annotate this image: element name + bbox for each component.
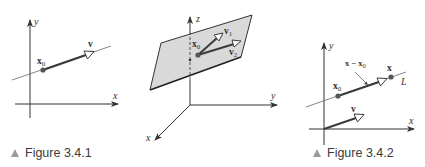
vector-v-arrowhead-icon [84,51,94,59]
y-axis-label: y [33,16,39,27]
vector-v [324,118,356,129]
triangle-marker-icon [313,149,321,157]
figure-3-4-1: y x x0 v [12,16,118,118]
pointer-line [355,72,367,84]
x-axis-label: x [408,115,414,126]
triangle-marker-icon [11,149,19,157]
point-x0-3d [195,52,200,57]
diff-label: x − x0 [345,58,366,69]
figure-3-4-2: y x x − x0 x x0 L v [306,40,414,145]
vector-x-minus-x0 [338,82,379,96]
z-axis-label: z [195,13,200,24]
vector-v [43,55,86,70]
x-axis-3d [155,105,190,140]
vector-v-label: v [88,39,93,49]
caption-figure-3-4-1: Figure 3.4.1 [11,146,92,160]
line-L-label: L [400,76,407,87]
point-x0-label: x0 [333,81,342,93]
caption-text: Figure 3.4.2 [327,146,394,160]
vector-x-minus-x0-arrowhead-icon [377,78,387,86]
point-x0-label: x0 [37,56,46,68]
point-x [388,74,393,79]
point-x0 [335,93,340,98]
figure-3d-plane: z y x x0 v1 v2 [145,13,277,143]
figures-canvas: y x x0 v z y x x0 v1 v2 [0,0,425,167]
z-axis-intercept [189,59,192,62]
x-axis-label: x [112,90,118,101]
vector-v-label: v [351,104,356,114]
x-axis-3d-label: x [145,132,151,143]
vector-v-arrowhead-icon [354,114,364,122]
y-axis-label: y [328,40,334,51]
caption-text: Figure 3.4.1 [25,146,92,160]
point-x-label: x [387,63,392,73]
y-axis-3d-label: y [270,90,276,101]
point-x0 [40,67,45,72]
caption-figure-3-4-2: Figure 3.4.2 [313,146,394,160]
